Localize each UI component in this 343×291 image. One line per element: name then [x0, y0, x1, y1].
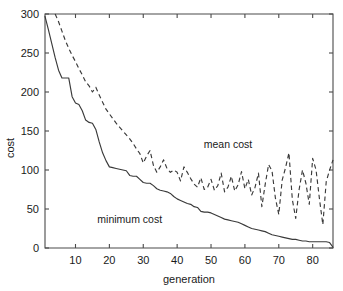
y-tick-label: 150: [21, 125, 39, 137]
x-tick-label: 70: [273, 254, 285, 266]
x-tick-label: 20: [103, 254, 115, 266]
annotation-mean-cost: mean cost: [204, 138, 253, 150]
y-tick-label: 0: [33, 242, 39, 254]
x-tick-label: 50: [205, 254, 217, 266]
y-tick-label: 200: [21, 86, 39, 98]
x-tick-label: 30: [137, 254, 149, 266]
chart-canvas: 050100150200250300 1020304050607080 cost…: [0, 0, 343, 291]
x-tick-label: 40: [171, 254, 183, 266]
y-axis-title: cost: [4, 138, 16, 158]
y-tick-label: 250: [21, 47, 39, 59]
cost-vs-generation-chart: 050100150200250300 1020304050607080 cost…: [0, 0, 343, 291]
x-axis-title: generation: [163, 273, 215, 285]
x-tick-label: 80: [307, 254, 319, 266]
x-tick-label: 60: [239, 254, 251, 266]
x-tick-label: 10: [69, 254, 81, 266]
y-tick-label: 50: [27, 203, 39, 215]
annotation-minimum-cost: minimum cost: [97, 213, 162, 225]
y-tick-label: 300: [21, 8, 39, 20]
y-tick-label: 100: [21, 164, 39, 176]
